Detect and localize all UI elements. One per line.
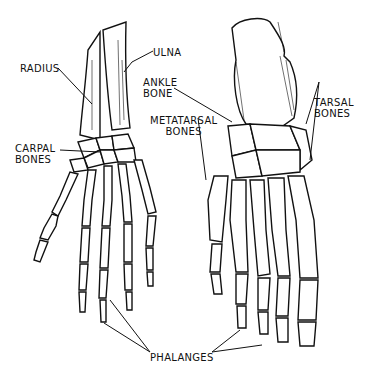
label-carpal-line2: Bones <box>15 154 55 165</box>
label-radius: Radius <box>20 63 60 74</box>
label-carpal-bones: Carpal Bones <box>15 143 55 165</box>
label-tarsal-line2: Bones <box>314 108 354 119</box>
label-tarsal-line1: Tarsal <box>314 97 354 108</box>
label-ankle-line2: Bone <box>143 88 177 99</box>
label-ulna: Ulna <box>153 47 181 58</box>
anatomy-illustration <box>0 0 365 375</box>
label-phalanges: Phalanges <box>150 352 214 363</box>
label-metatarsal-bones: Metatarsal Bones <box>150 115 217 137</box>
label-ankle-line1: Ankle <box>143 77 177 88</box>
foot-skeleton <box>208 19 318 346</box>
label-ankle-bone: Ankle Bone <box>143 77 177 99</box>
label-tarsal-bones: Tarsal Bones <box>314 97 354 119</box>
label-carpal-line1: Carpal <box>15 143 55 154</box>
label-metatarsal-line1: Metatarsal <box>150 115 217 126</box>
label-metatarsal-line2: Bones <box>150 126 217 137</box>
